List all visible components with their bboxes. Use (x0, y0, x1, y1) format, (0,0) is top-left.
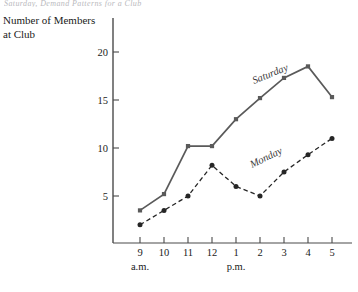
data-point-monday (330, 136, 335, 141)
data-point-monday (234, 184, 239, 189)
x-tick-label: 3 (281, 247, 286, 258)
chart-series-layer (138, 64, 335, 227)
y-axis-ticks: 5101520 (98, 47, 120, 202)
y-tick-label: 15 (98, 95, 109, 106)
data-point-saturday (306, 64, 310, 68)
y-tick-label: 10 (98, 143, 109, 154)
data-point-saturday (282, 76, 286, 80)
series-annotation-saturday: Saturday (251, 61, 290, 85)
x-axis-ticks: 910111212345 (137, 237, 334, 258)
data-point-saturday (258, 96, 262, 100)
x-tick-label: 10 (159, 247, 170, 258)
chart-axes (113, 18, 352, 243)
series-line-monday (140, 138, 332, 224)
x-tick-label: 2 (257, 247, 262, 258)
data-point-saturday (162, 192, 166, 196)
data-point-monday (210, 163, 215, 168)
data-point-saturday (234, 117, 238, 121)
data-point-monday (162, 208, 167, 213)
x-tick-label: 12 (207, 247, 218, 258)
x-tick-label: 5 (329, 247, 334, 258)
x-tick-label: 4 (305, 247, 311, 258)
data-point-monday (138, 222, 143, 227)
data-point-saturday (210, 144, 214, 148)
data-point-monday (306, 152, 311, 157)
x-tick-label: 11 (183, 247, 193, 258)
data-point-monday (282, 170, 287, 175)
data-point-monday (258, 194, 263, 199)
x-axis-period-label: p.m. (227, 261, 246, 272)
data-point-saturday (330, 95, 334, 99)
x-axis-period-labels: a.m.p.m. (131, 261, 245, 272)
line-chart-plot: 5101520 910111212345 a.m.p.m. SaturdayMo… (0, 0, 358, 292)
y-tick-label: 5 (103, 191, 108, 202)
series-annotation-monday: Monday (247, 145, 284, 171)
x-tick-label: 9 (137, 247, 142, 258)
data-point-monday (186, 194, 191, 199)
y-tick-label: 20 (98, 47, 109, 58)
data-point-saturday (186, 144, 190, 148)
x-tick-label: 1 (233, 247, 238, 258)
chart-figure: Saturday, Demand Patterns for a Club Num… (0, 0, 358, 292)
data-point-saturday (138, 208, 142, 212)
x-axis-period-label: a.m. (131, 261, 149, 272)
